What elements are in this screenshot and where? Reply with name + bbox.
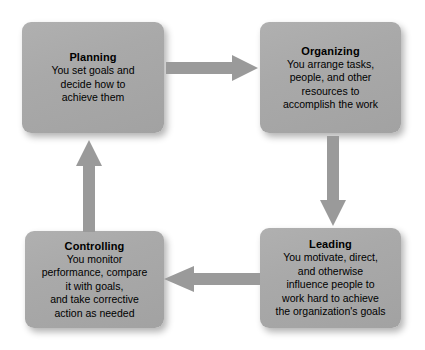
node-planning-title: Planning bbox=[69, 50, 116, 64]
node-leading-title: Leading bbox=[309, 237, 352, 251]
arrow-planning-to-organizing-icon bbox=[166, 55, 258, 81]
arrow-leading-to-controlling-icon bbox=[164, 266, 260, 292]
node-planning[interactable]: Planning You set goals and decide how to… bbox=[22, 22, 164, 133]
node-leading[interactable]: Leading You motivate, direct, and otherw… bbox=[260, 228, 401, 328]
node-planning-body: You set goals and decide how to achieve … bbox=[51, 64, 134, 104]
node-organizing[interactable]: Organizing You arrange tasks, people, an… bbox=[260, 22, 401, 133]
node-controlling-title: Controlling bbox=[65, 239, 125, 253]
node-controlling-body: You monitor performance, compare it with… bbox=[42, 253, 148, 320]
arrow-organizing-to-leading-icon bbox=[320, 136, 346, 226]
node-organizing-body: You arrange tasks, people, and other res… bbox=[283, 58, 378, 112]
node-leading-body: You motivate, direct, and otherwise infl… bbox=[276, 251, 386, 318]
arrow-controlling-to-planning-icon bbox=[76, 140, 102, 232]
management-cycle-diagram: Planning You set goals and decide how to… bbox=[0, 0, 425, 350]
node-organizing-title: Organizing bbox=[301, 44, 359, 58]
node-controlling[interactable]: Controlling You monitor performance, com… bbox=[25, 231, 164, 328]
